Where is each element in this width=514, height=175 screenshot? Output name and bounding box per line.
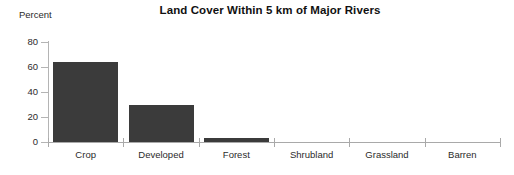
x-axis-tick <box>500 138 501 147</box>
x-axis-tick-label-developed: Developed <box>123 150 198 160</box>
y-axis-tick-label: 60 <box>2 62 38 72</box>
x-axis-tick-label-crop: Crop <box>48 150 123 160</box>
y-axis-tick-label: 40 <box>2 87 38 97</box>
y-axis-tick <box>41 67 48 68</box>
x-axis-tick-label-grassland: Grassland <box>349 150 424 160</box>
y-axis-tick <box>41 117 48 118</box>
plot-area <box>48 42 500 142</box>
y-axis-tick <box>41 42 48 43</box>
y-axis-tick-label: 20 <box>2 112 38 122</box>
y-axis-tick-label: 0 <box>2 137 38 147</box>
y-axis-label: Percent <box>19 9 52 20</box>
x-axis-tick-label-forest: Forest <box>199 150 274 160</box>
x-axis-tick-label-barren: Barren <box>425 150 500 160</box>
chart-title: Land Cover Within 5 km of Major Rivers <box>60 4 480 16</box>
y-axis-tick <box>41 142 48 143</box>
y-axis-tick-label: 80 <box>2 37 38 47</box>
x-axis-tick-label-shrubland: Shrubland <box>274 150 349 160</box>
bar-developed <box>129 105 194 143</box>
bar-forest <box>204 138 269 142</box>
bar-crop <box>53 62 118 142</box>
bar-chart: Land Cover Within 5 km of Major Rivers P… <box>0 0 514 175</box>
y-axis-tick <box>41 92 48 93</box>
